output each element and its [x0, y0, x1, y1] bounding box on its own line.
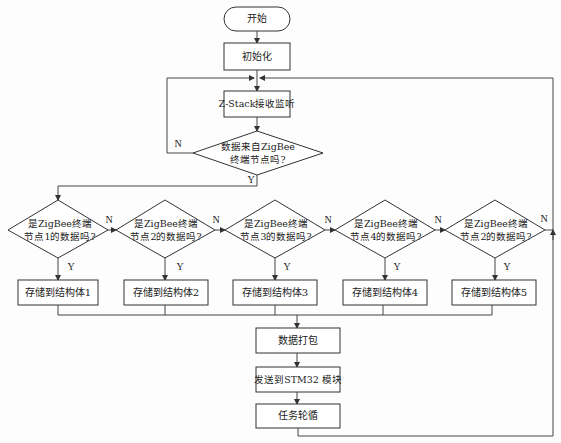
node-decision-4: 是ZigBee终端 节点4的数据吗?: [335, 200, 435, 258]
node-decision-2-line2: 节点2的数据吗?: [130, 231, 201, 242]
store-box-2: 存储到结构体2: [124, 280, 208, 305]
store-box-1-label: 存储到结构体1: [25, 286, 91, 298]
yes-label-1: Y: [67, 261, 74, 272]
store-box-5: 存储到结构体5: [452, 280, 536, 305]
yes-label-3: Y: [283, 261, 290, 272]
store-box-5-label: 存储到结构体5: [461, 286, 527, 298]
store-box-2-label: 存储到结构体2: [133, 286, 199, 298]
node-decision-1-line2: 节点1的数据吗?: [24, 231, 95, 242]
node-decision-5: 是ZigBee终端 节点2的数据吗?: [445, 200, 545, 258]
no-label-1: N: [105, 214, 112, 225]
node-decision-3: 是ZigBee终端 节点3的数据吗?: [225, 200, 325, 258]
main-decision: 数据来自ZigBee 终端节点吗?: [193, 131, 323, 175]
init-box: 初始化: [224, 43, 290, 70]
node-decision-5-line2: 节点2的数据吗?: [460, 231, 531, 242]
task-loop-label: 任务轮循: [278, 409, 318, 421]
start-label: 开始: [247, 12, 267, 24]
task-loop-box: 任务轮循: [256, 404, 340, 428]
main-decision-line2: 终端节点吗?: [230, 154, 285, 165]
store-box-1: 存储到结构体1: [18, 280, 98, 305]
listen-label: Z-Stack接收监听: [219, 98, 296, 109]
send-label: 发送到STM32 模块: [254, 374, 342, 385]
node-decision-1: 是ZigBee终端 节点1的数据吗?: [8, 200, 108, 258]
pack-box: 数据打包: [256, 328, 340, 353]
store-box-4: 存储到结构体4: [343, 280, 427, 305]
yes-label-5: Y: [503, 261, 510, 272]
node-decision-2: 是ZigBee终端 节点2的数据吗?: [116, 200, 215, 258]
node-decision-4-line1: 是ZigBee终端: [354, 218, 418, 229]
node-decision-5-line1: 是ZigBee终端: [464, 218, 528, 229]
yes-label-2: Y: [176, 261, 183, 272]
no-label-2: N: [212, 214, 219, 225]
pack-label: 数据打包: [278, 334, 318, 346]
node-decision-4-line2: 节点4的数据吗?: [350, 231, 421, 242]
no-label-3: N: [324, 214, 331, 225]
no-label-4: N: [434, 214, 441, 225]
no-label-5: N: [540, 213, 547, 224]
node-decision-3-line2: 节点3的数据吗?: [240, 231, 311, 242]
store-box-4-label: 存储到结构体4: [352, 286, 418, 298]
yes-label-main: Y: [247, 174, 254, 185]
node-decision-3-line1: 是ZigBee终端: [244, 218, 308, 229]
no-label-main: N: [174, 138, 181, 149]
node-decision-1-line1: 是ZigBee终端: [28, 218, 92, 229]
flowchart: 开始 初始化 Z-Stack接收监听 数据来自ZigBee 终端节点吗? N Y…: [0, 0, 561, 443]
node-decision-2-line1: 是ZigBee终端: [134, 218, 198, 229]
init-label: 初始化: [242, 50, 272, 62]
store-box-3: 存储到结构体3: [233, 280, 317, 305]
loop-return-line-bottom: [298, 428, 553, 436]
send-box: 发送到STM32 模块: [254, 367, 342, 392]
yes-label-4: Y: [393, 261, 400, 272]
store-box-3-label: 存储到结构体3: [242, 286, 308, 298]
main-decision-line1: 数据来自ZigBee: [221, 141, 295, 152]
listen-box: Z-Stack接收监听: [219, 91, 296, 117]
start-terminal: 开始: [224, 7, 290, 31]
